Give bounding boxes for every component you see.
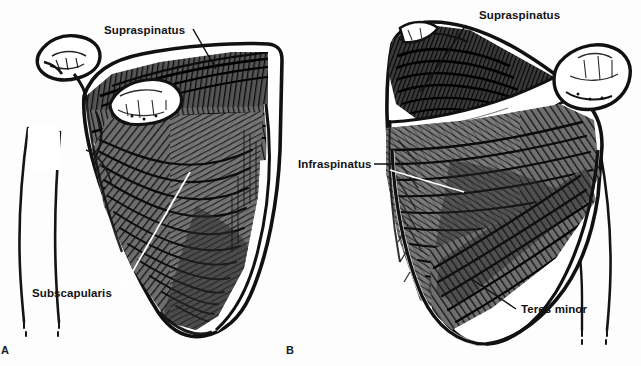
- label-teres-minor: Teres minor: [521, 303, 587, 315]
- anatomy-figure: Supraspinatus Subscapularis Supraspinatu…: [0, 0, 641, 366]
- panel-label-b: B: [286, 344, 294, 356]
- acromion-humeral-head-posterior: [554, 45, 630, 110]
- label-supraspinatus-anterior: Supraspinatus: [104, 24, 185, 36]
- label-supraspinatus-posterior: Supraspinatus: [479, 9, 560, 21]
- label-infraspinatus: Infraspinatus: [298, 158, 372, 170]
- panel-label-a: A: [1, 344, 9, 356]
- label-subscapularis: Subscapularis: [32, 287, 112, 299]
